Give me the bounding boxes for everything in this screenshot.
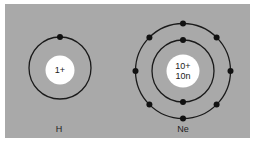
electron xyxy=(146,34,152,40)
nucleus-charge: 10+ xyxy=(175,61,190,71)
atom-diagrams xyxy=(0,0,255,144)
nucleus-neutrons: 10n xyxy=(175,71,190,81)
electron xyxy=(146,102,152,108)
electron xyxy=(133,68,139,74)
electron xyxy=(180,37,186,43)
electron xyxy=(214,102,220,108)
hydrogen-nucleus-label: 1+ xyxy=(55,65,65,75)
electron xyxy=(214,34,220,40)
hydrogen-label: H xyxy=(56,124,63,134)
neon-nucleus-label: 10+ 10n xyxy=(175,61,190,81)
electron xyxy=(228,68,234,74)
electron xyxy=(180,21,186,27)
electron xyxy=(57,34,63,40)
electron xyxy=(180,116,186,122)
electron xyxy=(180,99,186,105)
nucleus-charge: 1+ xyxy=(55,65,65,75)
neon-label: Ne xyxy=(177,124,189,134)
